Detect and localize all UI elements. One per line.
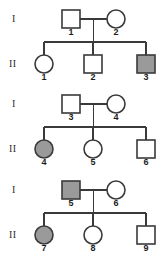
generation-label-4-II: II (9, 143, 17, 154)
individual-square-unaffected-f3-child-9[interactable] (137, 226, 155, 244)
individual-id-label-f2-parent-3: 3 (68, 112, 73, 122)
individual-circle-affected-f2-child-4[interactable] (35, 140, 53, 158)
individual-id-label-f3-child-9: 9 (143, 243, 148, 253)
individual-circle-unaffected-f2-child-5[interactable] (84, 140, 102, 158)
individual-square-unaffected-f2-parent-3[interactable] (62, 95, 80, 113)
generation-label-3-I: I (12, 98, 16, 109)
individual-id-label-f2-parent-4: 4 (113, 112, 118, 122)
individual-id-label-f1-child-3: 3 (143, 72, 148, 82)
individual-id-label-f1-child-1: 1 (41, 72, 46, 82)
individual-circle-unaffected-f1-parent-2[interactable] (107, 10, 125, 28)
individual-id-label-f3-child-7: 7 (41, 243, 46, 253)
individual-id-label-f1-parent-1: 1 (68, 27, 73, 37)
individual-id-label-f3-parent-6: 6 (113, 198, 118, 208)
connector-lines-layer (44, 19, 146, 226)
individual-id-label-f2-child-5: 5 (90, 157, 95, 167)
individual-id-label-f1-child-2: 2 (90, 72, 95, 82)
individual-id-label-f3-parent-5: 5 (68, 198, 73, 208)
generation-labels-layer: IIIIIIIII (9, 13, 17, 240)
individual-circle-unaffected-f3-child-8[interactable] (84, 226, 102, 244)
individual-circle-unaffected-f2-parent-4[interactable] (107, 95, 125, 113)
pedigree-diagram-canvas: 121233445656789 IIIIIIIII (0, 0, 165, 260)
individual-square-affected-f3-parent-5[interactable] (62, 181, 80, 199)
generation-label-5-I: I (12, 184, 16, 195)
pedigree-chart: 121233445656789 IIIIIIIII (0, 0, 165, 260)
generation-label-1-I: I (12, 13, 16, 24)
individual-circle-unaffected-f3-parent-6[interactable] (107, 181, 125, 199)
individual-circle-affected-f3-child-7[interactable] (35, 226, 53, 244)
individual-circle-unaffected-f1-child-1[interactable] (35, 55, 53, 73)
individual-id-label-f1-parent-2: 2 (113, 27, 118, 37)
individual-square-unaffected-f2-child-6[interactable] (137, 140, 155, 158)
individual-id-label-f2-child-4: 4 (41, 157, 46, 167)
individual-square-unaffected-f1-parent-1[interactable] (62, 10, 80, 28)
individual-square-affected-f1-child-3[interactable] (137, 55, 155, 73)
individual-id-label-f2-child-6: 6 (143, 157, 148, 167)
generation-label-6-II: II (9, 229, 17, 240)
individual-square-unaffected-f1-child-2[interactable] (84, 55, 102, 73)
individual-id-label-f3-child-8: 8 (90, 243, 95, 253)
generation-label-2-II: II (9, 58, 17, 69)
